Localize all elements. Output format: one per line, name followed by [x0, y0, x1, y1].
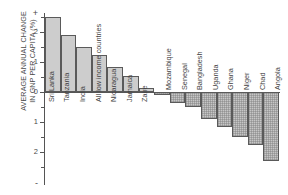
category-label-jamaica: Jamaica [126, 75, 134, 102]
bar-angola [263, 92, 279, 161]
bar-bangladesh [185, 92, 201, 107]
category-label-senegal: Senegal [181, 63, 189, 90]
category-label-tanzania: Tanzania [63, 73, 71, 102]
category-label-ghana: Ghana [227, 68, 235, 90]
category-label-niger: Niger [243, 73, 251, 90]
bar-senegal [170, 92, 186, 103]
category-label-bangladesh: Bangladesh [196, 51, 204, 90]
category-label-uganda: Uganda [212, 64, 220, 90]
bar-uganda [201, 92, 217, 119]
category-label-nicaragua: Nicaragua [110, 69, 118, 102]
category-label-all-low-income-countries: All low income countries [95, 24, 103, 102]
gnp-per-capita-bar-chart: AVERAGE ANNUAL CHANGE IN GNP PER CAPITA … [0, 0, 288, 195]
category-label-sri-lanka: Sri Lanka [48, 71, 56, 102]
bar-chad [248, 92, 264, 145]
bar-mozambique [154, 92, 170, 95]
category-label-mozambique: Mozambique [165, 48, 173, 90]
category-label-zaire: Zaire [141, 85, 149, 102]
plot-area: Sri LankaTanzaniaIndiaAll low income cou… [0, 0, 288, 195]
bar-ghana [217, 92, 233, 127]
category-label-chad: Chad [259, 73, 267, 90]
category-label-angola: Angola [274, 67, 282, 90]
category-label-india: India [79, 86, 87, 102]
bar-niger [232, 92, 248, 137]
